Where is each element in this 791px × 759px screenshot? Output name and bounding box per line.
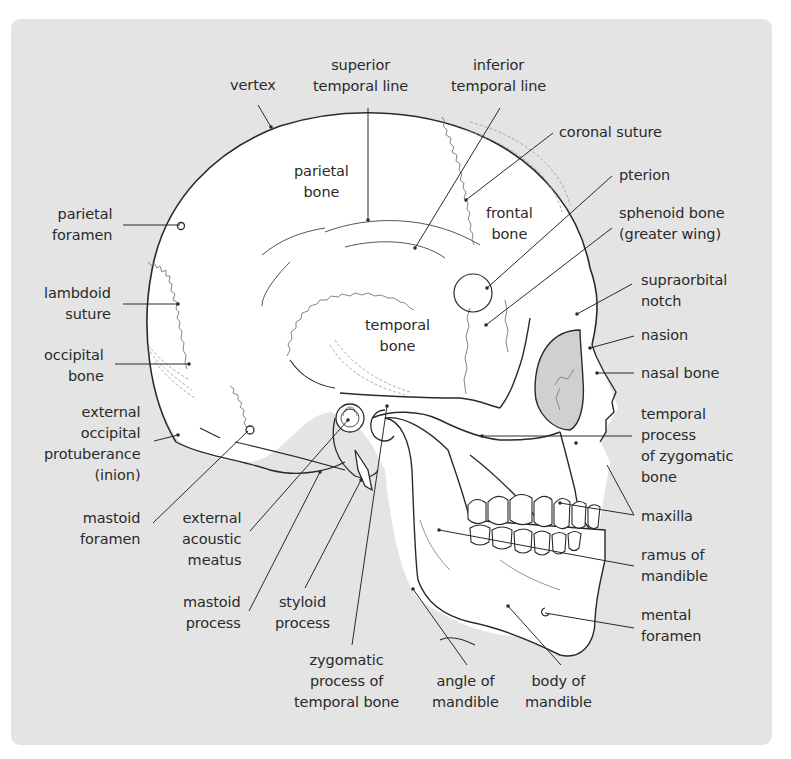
- label-mastoid-process: mastoid process: [183, 592, 241, 634]
- label-nasion: nasion: [641, 325, 688, 346]
- label-sphenoid-bone: sphenoid bone (greater wing): [619, 203, 725, 245]
- label-zygomatic-process: zygomatic process of temporal bone: [294, 650, 399, 713]
- label-styloid-process: styloid process: [275, 592, 330, 634]
- label-frontal-bone: frontal bone: [486, 203, 533, 245]
- label-mental-foramen: mental foramen: [641, 605, 701, 647]
- label-superior-temporal-line: superior temporal line: [313, 55, 408, 97]
- label-vertex: vertex: [230, 75, 276, 96]
- label-temporal-process-zygomatic: temporal process of zygomatic bone: [641, 404, 733, 488]
- label-coronal-suture: coronal suture: [559, 122, 662, 143]
- label-pterion: pterion: [619, 165, 670, 186]
- label-nasal-bone: nasal bone: [641, 363, 719, 384]
- label-external-occipital-protuberance: external occipital protuberance (inion): [44, 402, 140, 486]
- label-temporal-bone: temporal bone: [365, 315, 430, 357]
- label-ramus-of-mandible: ramus of mandible: [641, 545, 708, 587]
- label-inferior-temporal-line: inferior temporal line: [451, 55, 546, 97]
- label-supraorbital-notch: supraorbital notch: [641, 270, 727, 312]
- label-angle-of-mandible: angle of mandible: [432, 671, 499, 713]
- label-parietal-bone: parietal bone: [294, 161, 349, 203]
- label-external-acoustic-meatus: external acoustic meatus: [182, 508, 241, 571]
- label-occipital-bone: occipital bone: [44, 345, 104, 387]
- label-body-of-mandible: body of mandible: [525, 671, 592, 713]
- label-mastoid-foramen: mastoid foramen: [80, 508, 140, 550]
- label-parietal-foramen: parietal foramen: [52, 204, 112, 246]
- label-lambdoid-suture: lambdoid suture: [44, 283, 111, 325]
- label-maxilla: maxilla: [641, 506, 693, 527]
